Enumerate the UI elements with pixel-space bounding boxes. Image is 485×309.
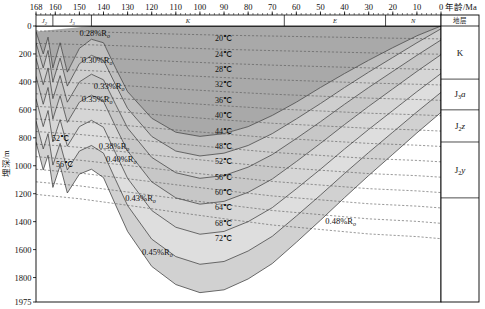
x-tick-label-50: 50 [316, 2, 325, 12]
x-tick-label-40: 40 [340, 2, 349, 12]
isotherm-label-64℃: 64℃ [215, 203, 232, 212]
y-tick-label-1975: 1975 [15, 297, 32, 307]
y-tick-label-1000: 1000 [15, 161, 32, 171]
ro-label-5: 0.40%Ro [106, 154, 137, 165]
strat-column: 地层KJ3aJ2zJ2y [441, 15, 479, 302]
y-tick-label-1200: 1200 [15, 189, 32, 199]
figure-canvas: 20℃24℃28℃32℃36℃40℃44℃48℃52℃56℃60℃64℃68℃7… [0, 0, 485, 309]
y-tick-label-0: 0 [27, 21, 31, 31]
y-tick-label-200: 200 [19, 49, 32, 59]
x-tick-label-140: 140 [97, 2, 110, 12]
period-bar: J2J3KEN [36, 15, 441, 26]
period-label-N: N [410, 17, 416, 24]
x-tick-label-80: 80 [244, 2, 253, 12]
x-tick-label-20: 20 [389, 2, 398, 12]
x-tick-label-90: 90 [220, 2, 229, 12]
isotherm-label-60℃: 60℃ [215, 188, 232, 197]
x-tick-label-10: 10 [413, 2, 422, 12]
ro-label-8: 0.48%Ro [325, 216, 356, 227]
isotherm-label-28℃: 28℃ [215, 65, 232, 74]
isotherm-label-left-1: 56℃ [56, 160, 73, 169]
x-tick-label-160: 160 [49, 2, 62, 12]
isotherm-label-left-0: 52℃ [52, 134, 69, 143]
ro-label-0: 0.28%Ro [79, 28, 110, 39]
x-tick-label-120: 120 [145, 2, 158, 12]
strat-unit-label-K: K [457, 48, 464, 58]
isotherm-label-36℃: 36℃ [215, 96, 232, 105]
isotherm-label-56℃: 56℃ [215, 173, 232, 182]
strat-column-header: 地层 [453, 16, 467, 25]
x-tick-label-110: 110 [170, 2, 182, 12]
y-tick-label-1800: 1800 [15, 273, 32, 283]
x-tick-label-168: 168 [30, 2, 43, 12]
y-tick-label-800: 800 [19, 133, 32, 143]
x-axis-title: 年龄/Ma [445, 2, 477, 12]
ro-label-3: 0.35%Ro [82, 94, 113, 105]
x-tick-label-150: 150 [73, 2, 86, 12]
ro-label-7: 0.45%Ro [142, 247, 173, 258]
isotherm-label-72℃: 72℃ [215, 234, 232, 243]
ro-label-4: 0.38%Ro [99, 141, 130, 152]
period-label-K: K [185, 17, 191, 24]
isotherm-label-68℃: 68℃ [215, 219, 232, 228]
strat-column-frame [441, 15, 479, 302]
period-label-E: E [332, 17, 337, 24]
y-tick-label-1600: 1600 [15, 245, 32, 255]
y-tick-label-400: 400 [19, 77, 32, 87]
strat-unit-label-J3a: J3a [454, 89, 466, 100]
x-tick-label-70: 70 [268, 2, 277, 12]
isotherm-label-48℃: 48℃ [215, 142, 232, 151]
burial-history-figure: 20℃24℃28℃32℃36℃40℃44℃48℃52℃56℃60℃64℃68℃7… [0, 0, 485, 309]
x-tick-label-100: 100 [194, 2, 207, 12]
y-axis-title: 埋深/m [1, 150, 11, 177]
ro-label-6: 0.43%Ro [125, 193, 156, 204]
ro-label-2: 0.33%Ro [94, 81, 125, 92]
isotherm-label-32℃: 32℃ [215, 80, 232, 89]
period-bar-frame [36, 15, 441, 26]
y-tick-label-1400: 1400 [15, 217, 32, 227]
isotherm-label-44℃: 44℃ [215, 127, 232, 136]
x-tick-label-130: 130 [121, 2, 134, 12]
isotherm-label-24℃: 24℃ [215, 50, 232, 59]
y-tick-label-600: 600 [19, 105, 32, 115]
isotherm-label-52℃: 52℃ [215, 157, 232, 166]
x-tick-label-60: 60 [292, 2, 301, 12]
x-tick-label-30: 30 [364, 2, 373, 12]
isotherm-label-20℃: 20℃ [215, 34, 232, 43]
isotherm-label-40℃: 40℃ [215, 111, 232, 120]
ro-label-1: 0.30%Ro [82, 55, 113, 66]
x-tick-label-0: 0 [439, 2, 443, 12]
